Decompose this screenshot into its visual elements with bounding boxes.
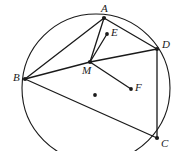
segment-layer [25, 18, 157, 138]
point-label-a: A [101, 3, 108, 14]
point-dot-a [102, 16, 106, 20]
point-label-m: M [82, 65, 91, 76]
point-label-b: B [13, 72, 20, 83]
point-label-c: C [161, 138, 168, 149]
point-dot-d [155, 47, 159, 51]
main-circle [22, 14, 170, 151]
point-dot-c [155, 136, 159, 140]
geometry-figure: ADBCMEF [0, 0, 180, 151]
point-dot-o [93, 93, 97, 97]
segment-M-E [90, 34, 107, 62]
segment-B-M [25, 62, 90, 79]
segment-B-A [25, 18, 104, 79]
point-dot-e [105, 32, 109, 36]
point-label-e: E [111, 27, 118, 38]
segment-M-D [90, 49, 157, 62]
segment-M-A [90, 18, 104, 62]
circle-layer [22, 14, 170, 151]
point-dot-b [23, 77, 27, 81]
point-dot-f [129, 87, 133, 91]
point-dot-layer [23, 16, 159, 140]
segment-M-F [90, 62, 131, 89]
point-label-f: F [135, 82, 142, 93]
point-label-d: D [162, 39, 170, 50]
